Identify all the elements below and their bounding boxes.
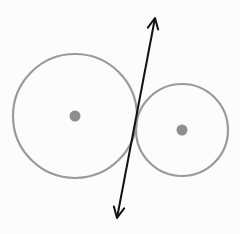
tangent-line bbox=[117, 18, 155, 218]
large-circle-center-dot bbox=[70, 111, 81, 122]
small-circle-center-dot bbox=[177, 125, 188, 136]
tangent-circles-diagram bbox=[0, 0, 240, 234]
diagram-canvas bbox=[0, 0, 240, 234]
